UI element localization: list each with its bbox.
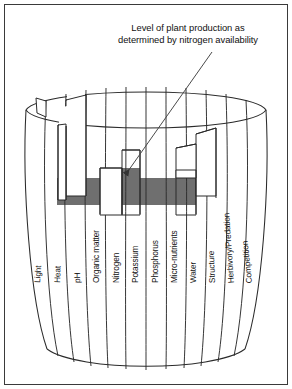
stave-label-water: Water [188,262,198,284]
stave-label-potassium: Potassium [130,245,140,283]
stave-label-organic-matter: Organic matter [91,230,101,283]
stave-label-structure: Structure [206,250,217,283]
stave-label-ph: pH [72,272,82,283]
stave-label-micro-nutrients: Micro-nutrients [169,230,179,283]
stave-label-competition: Competition [240,240,254,284]
stave-label-herbivory-predation: Herbivory/Predation [221,212,236,284]
stave-label-nitrogen: Nitrogen [111,252,121,283]
stave-label-phosphorus: Phosphorus [150,240,160,283]
stave-label-heat: Heat [52,265,63,283]
liebigs-barrel-diagram: Light Heat pH Organic matter Nitrogen Po… [0,0,292,389]
stave-label-light: Light [32,264,43,283]
figure-page: Level of plant production as determined … [0,0,292,389]
